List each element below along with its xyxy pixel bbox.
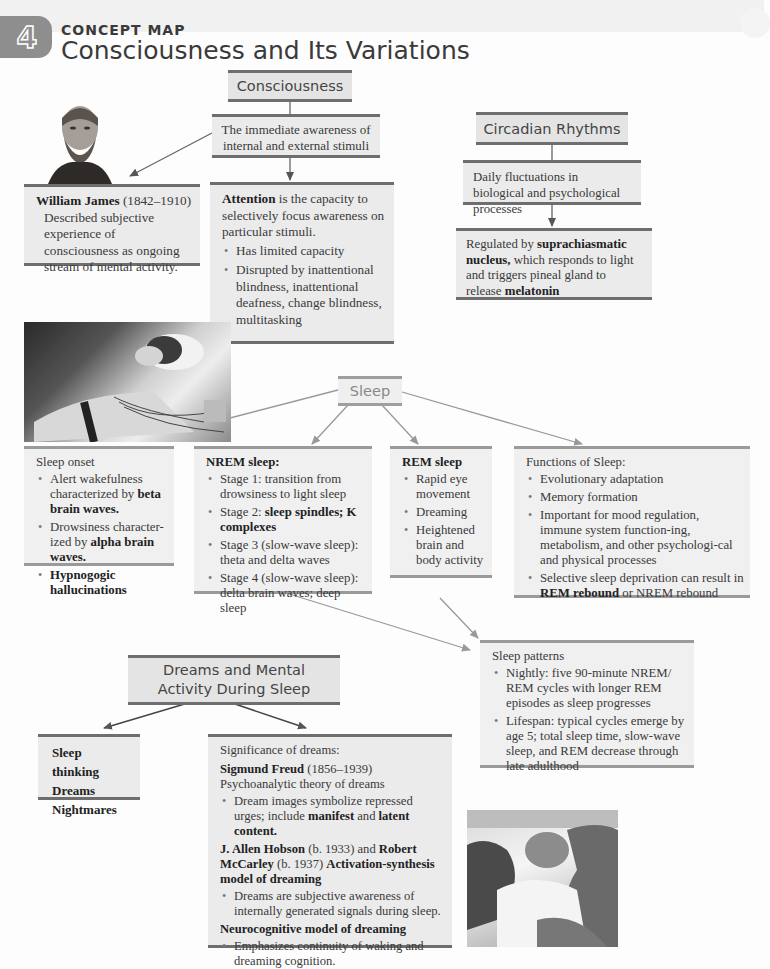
function-bullet: Memory formation	[526, 490, 744, 505]
sleep-onset-box: Sleep onset Alert wakefulness characteri…	[24, 446, 174, 566]
nrem-stage-1: Stage 1: transition from drowsiness to l…	[206, 472, 366, 502]
freud-name: Sigmund Freud	[220, 762, 304, 776]
pattern-bullet: Lifespan: typical cycles emerge by age 5…	[492, 714, 688, 774]
sleep-onset-bullet: Alert wakefulness characterized by beta …	[36, 472, 168, 517]
freud-list: Dream images symbolize repressed urges; …	[220, 794, 446, 839]
circadian-definition: Daily fluctuations in biological and psy…	[473, 170, 620, 216]
bullet-bold: Hypnogogic hallucinations	[50, 568, 127, 597]
neuro-list: Emphasizes continuity of waking and drea…	[220, 939, 446, 969]
neuro-title: Neurocognitive model of dreaming	[220, 922, 406, 936]
circadian-heading-text: Circadian Rhythms	[484, 121, 621, 137]
sleep-patterns-box: Sleep patterns Nightly: five 90-minute N…	[480, 640, 694, 768]
functions-title: Functions of Sleep:	[526, 455, 626, 469]
freud-dates: (1856–1939)	[304, 762, 372, 776]
function-bullet: Selective sleep deprivation can result i…	[526, 571, 744, 601]
rem-list: Rapid eye movement Dreaming Heightened b…	[402, 472, 486, 568]
bullet-text: Alert wakefulness characterized by	[50, 472, 143, 501]
consciousness-heading: Consciousness	[228, 70, 352, 102]
circadian-regulation-box: Regulated by suprachiasmatic nucleus, wh…	[456, 228, 652, 300]
activation-bullet: Dreams are subjective awareness of inter…	[220, 889, 446, 919]
rem-sleep-box: REM sleep Rapid eye movement Dreaming He…	[390, 446, 492, 578]
freud-entry: Sigmund Freud (1856–1939) Psychoanalytic…	[220, 762, 446, 839]
sleep-heading-text: Sleep	[350, 383, 390, 399]
melatonin-term: melatonin	[505, 284, 560, 298]
attention-bullet: Has limited capacity	[222, 243, 386, 260]
sleep-functions-box: Functions of Sleep: Evolutionary adaptat…	[514, 446, 750, 598]
william-james-description: Described subjective experience of consc…	[36, 210, 192, 276]
functions-list: Evolutionary adaptation Memory formation…	[526, 472, 744, 601]
bullet-text: or NREM rebound	[619, 586, 718, 600]
dream-significance-box: Significance of dreams: Sigmund Freud (1…	[208, 734, 452, 948]
activation-synthesis-entry: J. Allen Hobson (b. 1933) and Robert McC…	[220, 842, 446, 919]
william-james-dates: (1842–1910)	[123, 193, 191, 208]
function-bullet: Evolutionary adaptation	[526, 472, 744, 487]
attention-box: Attention is the capacity to selectively…	[210, 182, 394, 344]
nrem-stage-2: Stage 2: sleep spindles; K complexes	[206, 505, 366, 535]
neuro-bullet: Emphasizes continuity of waking and drea…	[220, 939, 446, 969]
sleep-heading: Sleep	[338, 376, 402, 406]
dream-type-item: Dreams	[52, 781, 130, 800]
chapter-number: 4	[7, 20, 38, 55]
significance-title: Significance of dreams:	[220, 743, 446, 758]
consciousness-definition: The immediate awareness of internal and …	[221, 122, 370, 153]
rem-title: REM sleep	[402, 455, 462, 469]
chapter-badge: 4	[0, 16, 52, 58]
nrem-sleep-box: NREM sleep: Stage 1: transition from dro…	[194, 446, 372, 594]
regulation-text: Regulated by	[466, 237, 537, 251]
consciousness-definition-box: The immediate awareness of internal and …	[212, 114, 380, 158]
sleep-onset-bullet: Hypnogogic hallucinations	[36, 568, 168, 598]
dream-type-item: Sleep thinking	[52, 743, 130, 781]
page-title: Consciousness and Its Variations	[61, 36, 470, 65]
portrait-icon	[42, 98, 118, 184]
page-corner-decoration	[740, 8, 770, 38]
freud-theory: Psychoanalytic theory of dreams	[220, 777, 385, 791]
sleep-onset-title: Sleep onset	[36, 455, 95, 469]
attention-bullet: Disrupted by inattentional blindness, in…	[222, 262, 386, 328]
consciousness-heading-text: Consciousness	[237, 78, 344, 94]
sleeping-baby-image	[467, 810, 618, 947]
sleep-onset-bullet: Drowsiness character-ized by alpha brain…	[36, 520, 168, 565]
patterns-title: Sleep patterns	[492, 649, 564, 663]
nrem-list: Stage 1: transition from drowsiness to l…	[206, 472, 366, 616]
nrem-stage-3: Stage 3 (slow-wave sleep): theta and del…	[206, 538, 366, 568]
freud-bullet: Dream images symbolize repressed urges; …	[220, 794, 446, 839]
bullet-bold: REM rebound	[540, 586, 619, 600]
dreams-heading-text: Dreams and Mental Activity During Sleep	[134, 661, 334, 699]
rem-bullet: Dreaming	[402, 505, 486, 520]
bullet-text: and	[354, 809, 378, 823]
bullet-text: Selective sleep deprivation can result i…	[540, 571, 744, 585]
attention-term: Attention	[222, 191, 275, 206]
neurocognitive-entry: Neurocognitive model of dreaming Emphasi…	[220, 922, 446, 969]
dream-types-box: Sleep thinking Dreams Nightmares	[38, 734, 140, 800]
sleeping-person-image	[24, 322, 231, 442]
attention-list: Has limited capacity Disrupted by inatte…	[222, 243, 386, 329]
sleep-onset-list: Alert wakefulness characterized by beta …	[36, 472, 168, 598]
parent-baby-photo	[467, 810, 618, 947]
bullet-bold: manifest	[308, 809, 354, 823]
patterns-list: Nightly: five 90-minute NREM/ REM cycles…	[492, 666, 688, 774]
sleep-lab-photo	[24, 322, 231, 442]
hobson-name: J. Allen Hobson	[220, 842, 305, 856]
pattern-bullet: Nightly: five 90-minute NREM/ REM cycles…	[492, 666, 688, 711]
dream-type-item: Nightmares	[52, 800, 130, 819]
william-james-name: William James	[36, 193, 120, 208]
william-james-photo	[42, 98, 118, 184]
rem-bullet: Heightened brain and body activity	[402, 523, 486, 568]
william-james-box: William James (1842–1910) Described subj…	[24, 184, 200, 266]
dreams-heading: Dreams and Mental Activity During Sleep	[128, 655, 340, 705]
function-bullet: Important for mood regulation, immune sy…	[526, 508, 744, 568]
circadian-heading: Circadian Rhythms	[476, 112, 628, 145]
nrem-stage-4: Stage 4 (slow-wave sleep): delta brain w…	[206, 571, 366, 616]
rem-bullet: Rapid eye movement	[402, 472, 486, 502]
nrem-title: NREM sleep:	[206, 455, 280, 469]
circadian-definition-box: Daily fluctuations in biological and psy…	[463, 160, 641, 205]
bullet-text: Stage 2:	[220, 505, 265, 519]
hobson-dates: (b. 1933) and	[305, 842, 379, 856]
mccarley-dates: (b. 1937)	[274, 857, 326, 871]
activation-list: Dreams are subjective awareness of inter…	[220, 889, 446, 919]
